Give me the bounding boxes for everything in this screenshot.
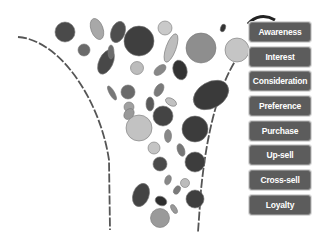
bubbles bbox=[55, 17, 275, 228]
stage-loyalty: Loyalty bbox=[249, 195, 311, 215]
stage-up-sell: Up-sell bbox=[249, 145, 311, 165]
stage-awareness: Awareness bbox=[249, 22, 311, 42]
funnel-stage-list: Awareness Interest Consideration Prefere… bbox=[249, 22, 311, 220]
stage-purchase: Purchase bbox=[249, 121, 311, 141]
stage-preference: Preference bbox=[249, 96, 311, 116]
stage-interest: Interest bbox=[249, 47, 311, 67]
stage-cross-sell: Cross-sell bbox=[249, 170, 311, 190]
stage-consideration: Consideration bbox=[249, 71, 311, 91]
funnel-right-wall bbox=[198, 45, 247, 232]
funnel-left-wall bbox=[18, 37, 110, 230]
